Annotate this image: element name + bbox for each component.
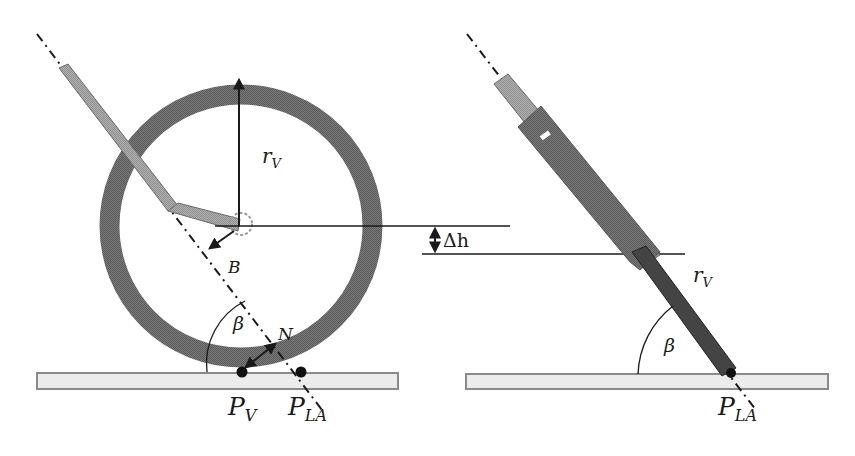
wheel-leg-geometry-diagram: rV B N β PV PLA Δh rV β PLA bbox=[0, 0, 855, 456]
leg-arm-lower bbox=[168, 203, 240, 231]
radius-label-left: rV bbox=[262, 144, 283, 171]
arm-contact-point bbox=[296, 367, 307, 378]
wheel-contact-point bbox=[237, 367, 248, 378]
arm-contact-label-right: PLA bbox=[717, 392, 757, 425]
pivot-arrow bbox=[210, 231, 234, 248]
radius-label-right: rV bbox=[693, 263, 714, 290]
pivot-label: B bbox=[227, 257, 241, 277]
ground-plate-right bbox=[466, 374, 828, 389]
angle-label-left: β bbox=[232, 312, 244, 334]
telescopic-sleeve-mid bbox=[518, 106, 660, 270]
ground-plate-left bbox=[37, 373, 398, 389]
left-view: rV B N β PV PLA bbox=[37, 34, 510, 425]
wheel-contact-label: PV bbox=[227, 392, 258, 425]
normal-label: N bbox=[277, 324, 294, 344]
right-view: rV β PLA bbox=[466, 34, 828, 425]
arm-contact-point-right bbox=[726, 368, 736, 378]
arm-contact-label-left: PLA bbox=[287, 392, 327, 425]
angle-label-right: β bbox=[663, 334, 675, 356]
delta-h-label: Δh bbox=[443, 229, 469, 251]
telescopic-inner-rod bbox=[632, 246, 736, 376]
